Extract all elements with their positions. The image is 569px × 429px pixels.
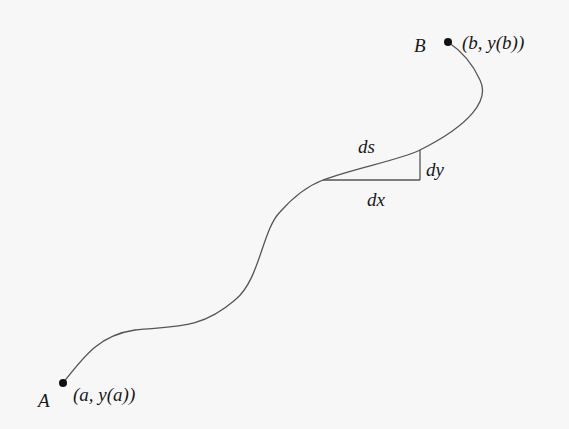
point-a-coordinates: (a, y(a)) [73, 385, 135, 404]
curve-y-of-x [63, 42, 483, 383]
dy-label: dy [426, 160, 444, 179]
arc-length-figure: B (b, y(b)) ds dy dx A (a, y(a)) [0, 0, 569, 429]
ds-label: ds [358, 137, 375, 156]
point-b-coordinates: (b, y(b)) [462, 33, 524, 52]
point-a-dot [59, 379, 67, 387]
point-b-name: B [414, 36, 426, 55]
figure-drawing [0, 0, 569, 429]
point-a-name: A [38, 391, 50, 410]
dx-label: dx [367, 190, 385, 209]
point-b-dot [444, 38, 452, 46]
